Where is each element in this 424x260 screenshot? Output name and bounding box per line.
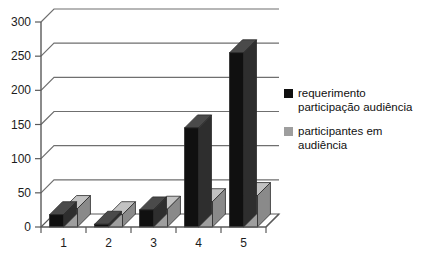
bar-s1-3-front [140,210,154,227]
chart-canvas: 050100150200250300 12345 requerimentopar… [0,0,424,260]
legend-swatch-2 [284,127,293,136]
y-tick-label-0: 0 [24,220,31,234]
bar-s1-1-front [50,215,64,227]
y-tick-label-100: 100 [11,152,31,166]
y-tick-label-250: 250 [11,49,31,63]
legend-label-1-line2: participação audiência [298,101,413,113]
y-tick-label-50: 50 [18,186,32,200]
bar-s1-5-front [230,53,244,227]
y-tick-label-300: 300 [11,15,31,29]
x-tick-label-3: 3 [150,236,157,250]
legend-label-1-line1: requerimento [298,87,366,99]
x-tick-label-5: 5 [240,236,247,250]
bar-s1-5-side [244,40,257,227]
bar-s1-4-side [199,115,212,227]
y-tick-label-200: 200 [11,83,31,97]
x-tick-label-4: 4 [195,236,202,250]
bar-chart: 050100150200250300 12345 requerimentopar… [0,0,424,260]
legend-label-2-line2: audiência [298,139,348,151]
y-tick-label-150: 150 [11,118,31,132]
x-tick-label-2: 2 [105,236,112,250]
legend-label-2-line1: participantes em [298,125,382,137]
bar-s1-4-front [185,128,199,227]
x-tick-label-1: 1 [60,236,67,250]
legend-swatch-1 [284,89,293,98]
